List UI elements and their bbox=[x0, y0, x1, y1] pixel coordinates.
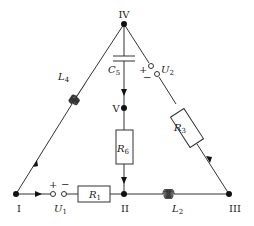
branch-i-iv: L4 bbox=[16, 24, 124, 194]
branch-i-ii: R1 + − U1 bbox=[16, 179, 124, 216]
node-v bbox=[121, 105, 127, 111]
node-iv bbox=[121, 21, 127, 27]
u2-minus-sign: − bbox=[143, 72, 151, 83]
label-l4: L4 bbox=[57, 71, 70, 84]
u2-terminal-plus bbox=[149, 64, 154, 69]
u1-minus-sign: − bbox=[61, 179, 69, 190]
current-arrow-i-ii bbox=[35, 191, 42, 197]
label-l2: L2 bbox=[171, 203, 183, 216]
label-u1: U1 bbox=[54, 203, 67, 216]
node-ii bbox=[121, 191, 127, 197]
current-arrow-iv-v bbox=[121, 89, 127, 96]
node-i bbox=[13, 191, 19, 197]
current-arrow-i-iv bbox=[33, 160, 38, 167]
u1-plus-sign: + bbox=[49, 179, 57, 190]
label-node-ii: II bbox=[121, 203, 129, 214]
label-c5: C5 bbox=[108, 64, 120, 77]
branch-ii-iii: L2 bbox=[124, 190, 229, 217]
node-iii bbox=[226, 191, 232, 197]
branch-v-ii: R6 bbox=[116, 108, 133, 194]
branch-iv-iii: R3 + − U2 bbox=[124, 24, 229, 194]
u1-terminal-plus bbox=[51, 192, 56, 197]
label-node-i: I bbox=[17, 203, 21, 214]
inductor-l2 bbox=[163, 190, 192, 199]
branch-iv-v: C5 bbox=[108, 24, 135, 108]
inductor-l4 bbox=[68, 80, 90, 107]
nodes: IV V I II III bbox=[13, 9, 241, 214]
label-node-iii: III bbox=[229, 203, 241, 214]
current-arrow-v-ii bbox=[121, 177, 127, 184]
circuit-diagram: L4 C5 R3 + − U2 bbox=[0, 0, 254, 226]
label-node-iv: IV bbox=[118, 9, 130, 20]
u1-terminal-minus bbox=[62, 192, 67, 197]
label-u2: U2 bbox=[161, 64, 174, 77]
u2-terminal-minus bbox=[155, 72, 160, 77]
label-node-v: V bbox=[111, 103, 120, 114]
